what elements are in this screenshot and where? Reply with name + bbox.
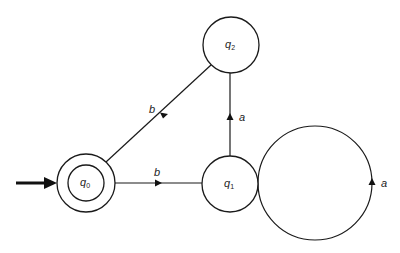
transition-label-q1-q2: a bbox=[239, 111, 245, 123]
state-q1: q1 bbox=[202, 156, 258, 212]
transition-label-q0-q1: b bbox=[154, 166, 160, 178]
transition-q1-q2: a bbox=[227, 73, 246, 156]
transition-label-q1-loop: a bbox=[381, 177, 387, 189]
arrowhead-icon bbox=[369, 178, 376, 185]
automaton-diagram: b a b a q0 q1 q2 bbox=[0, 0, 400, 253]
start-arrowhead-icon bbox=[44, 177, 57, 189]
arrowhead-icon bbox=[155, 180, 162, 187]
transition-q2-q0: b bbox=[106, 65, 211, 162]
arrowhead-icon bbox=[160, 113, 168, 119]
state-q0: q0 bbox=[57, 154, 115, 212]
state-q2: q2 bbox=[203, 17, 259, 73]
arrowhead-icon bbox=[227, 113, 234, 120]
start-arrow bbox=[16, 177, 57, 189]
transition-q0-q1: b bbox=[115, 166, 202, 187]
transition-q1-self-loop: a bbox=[258, 126, 387, 240]
transition-label-q2-q0: b bbox=[149, 103, 155, 115]
